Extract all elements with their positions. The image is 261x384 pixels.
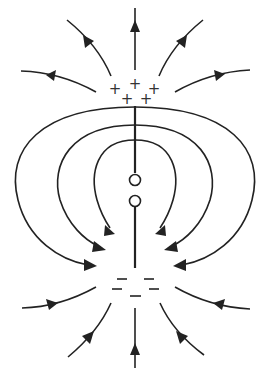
field-line-bottom-far-right [175, 287, 250, 309]
arrow-icon [213, 299, 225, 310]
field-line-left [21, 71, 96, 92]
arrow-icon [84, 259, 97, 271]
feed-terminal-lower [130, 196, 141, 207]
field-line-top-right [159, 20, 203, 76]
feed-terminal-upper [130, 175, 141, 186]
arrow-icon [130, 343, 140, 355]
arrow-icon [46, 70, 56, 81]
field-line-right [175, 70, 250, 92]
loop-left-inner [94, 140, 135, 228]
loop-right-middle [135, 125, 212, 246]
right-closed-field-loops [135, 107, 255, 271]
field-line-bottom-far-left [22, 287, 96, 308]
arrow-icon [130, 20, 140, 32]
loop-right-inner [135, 140, 176, 228]
svg-text:+: + [121, 90, 134, 108]
loop-left-outer [15, 107, 135, 265]
loop-left-middle [58, 125, 135, 246]
positive-charges: + + + + + [109, 75, 161, 108]
dipole-field-diagram: + + + + + [0, 0, 261, 384]
svg-text:+: + [109, 80, 122, 98]
dipole-antenna [130, 106, 141, 268]
svg-text:+: + [140, 90, 153, 108]
field-line-bottom-right [160, 303, 204, 355]
arrow-icon [176, 331, 188, 344]
arrow-icon [214, 70, 225, 81]
loop-right-outer [135, 107, 255, 265]
arrow-icon [173, 259, 186, 271]
field-line-bottom-left [68, 303, 111, 357]
left-closed-field-loops [15, 107, 135, 271]
negative-charges [112, 279, 159, 296]
arrow-icon [46, 299, 58, 310]
field-line-top-left [67, 20, 111, 76]
bottom-converging-field-lines [22, 287, 250, 368]
arrow-icon [92, 241, 106, 252]
arrow-icon [164, 241, 178, 252]
